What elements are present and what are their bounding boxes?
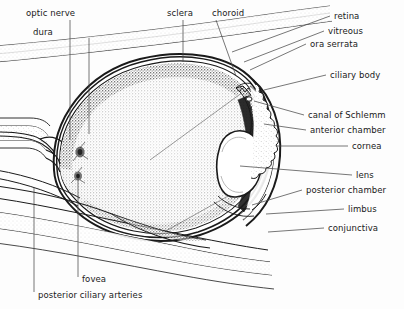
label-canal-of-schlemm: canal of Schlemm bbox=[308, 111, 386, 120]
label-optic-nerve: optic nerve bbox=[26, 9, 75, 18]
label-ciliary-body: ciliary body bbox=[330, 71, 380, 80]
label-dura: dura bbox=[33, 28, 53, 37]
label-choroid: choroid bbox=[212, 9, 244, 18]
label-sclera: sclera bbox=[167, 9, 193, 18]
leader-ora-serrata bbox=[250, 44, 306, 70]
leader-conjunctiva bbox=[268, 228, 324, 232]
canal-of-schlemm bbox=[246, 97, 252, 101]
label-ora-serrata: ora serrata bbox=[310, 40, 358, 49]
label-retina: retina bbox=[334, 12, 359, 21]
label-fovea: fovea bbox=[82, 275, 106, 284]
label-conjunctiva: conjunctiva bbox=[328, 224, 378, 233]
label-posterior-chamber: posterior chamber bbox=[306, 186, 386, 195]
label-cornea: cornea bbox=[352, 142, 382, 151]
label-vitreous: vitreous bbox=[328, 27, 363, 36]
leader-ciliary-body bbox=[264, 75, 326, 90]
leader-limbus bbox=[266, 209, 344, 214]
label-limbus: limbus bbox=[348, 205, 377, 214]
eye-anatomy-figure: optic nerve dura sclera choroid retina v… bbox=[0, 0, 404, 309]
label-anterior-chamber: anterior chamber bbox=[310, 126, 386, 135]
label-lens: lens bbox=[356, 171, 374, 180]
label-posterior-ciliary-arteries: posterior ciliary arteries bbox=[38, 291, 142, 300]
